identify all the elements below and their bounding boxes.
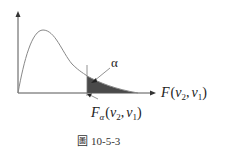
figure-caption: 圖10-5-3: [77, 135, 121, 147]
critical-pointer-line: [90, 95, 98, 99]
y-axis-arrow-icon: [16, 11, 21, 17]
density-curve: [18, 30, 138, 93]
f-distribution-diagram: α F(v2,v1) Fα(v2,v1) 圖10-5-3: [0, 0, 228, 151]
alpha-pointer-line: [94, 68, 110, 81]
x-axis-label: F(v2,v1): [160, 85, 207, 102]
alpha-label: α: [111, 55, 118, 70]
critical-value-label: Fα(v2,v1): [90, 105, 142, 122]
x-axis-arrow-icon: [150, 91, 156, 96]
figure-caption-icon: 圖: [77, 135, 88, 147]
shaded-tail-area: [87, 76, 138, 93]
